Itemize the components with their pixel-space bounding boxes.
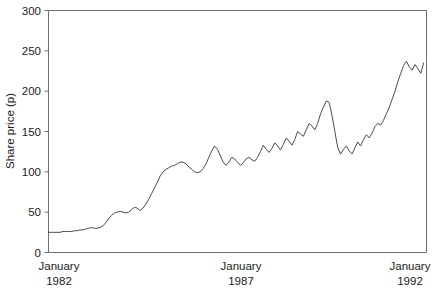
series-share-price [49, 61, 424, 232]
x-tick-label-1992-year: 1992 [397, 275, 423, 287]
x-tick-label-1987-month: January [221, 260, 262, 272]
y-axis-title: Share price (p) [4, 93, 16, 169]
x-tick-label-1992-month: January [390, 260, 431, 272]
chart-figure: 300 250 200 150 100 50 0 Share price (p)… [0, 0, 440, 299]
y-axis-tick-labels: 300 250 200 150 100 50 0 [22, 5, 41, 259]
y-tick-label-150: 150 [22, 126, 41, 138]
plot-frame [49, 11, 427, 253]
y-tick-label-250: 250 [22, 45, 41, 57]
y-axis-ticks [45, 11, 49, 253]
y-axis-title-label: Share price (p) [4, 93, 16, 169]
x-tick-label-1987-year: 1987 [228, 275, 254, 287]
x-tick-label-1982-month: January [39, 260, 80, 272]
y-tick-label-300: 300 [22, 5, 41, 17]
x-axis-tick-labels: January 1982 January 1987 January 1992 [39, 260, 431, 287]
share-price-line-chart: 300 250 200 150 100 50 0 Share price (p)… [0, 0, 440, 299]
y-tick-label-100: 100 [22, 166, 41, 178]
y-tick-label-0: 0 [35, 247, 41, 259]
y-tick-label-50: 50 [28, 206, 41, 218]
y-tick-label-200: 200 [22, 85, 41, 97]
x-tick-label-1982-year: 1982 [46, 275, 72, 287]
series-group [49, 61, 424, 232]
